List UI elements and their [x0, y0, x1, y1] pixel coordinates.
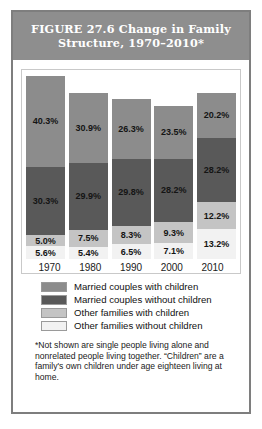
bar-1980: 30.9%29.9%7.5%5.4%	[69, 76, 108, 259]
bar-segment-value: 28.2%	[204, 165, 230, 175]
bar-segment: 7.5%	[69, 230, 108, 247]
bar-segment: 5.4%	[69, 247, 108, 259]
bar-segment: 29.8%	[112, 159, 151, 226]
legend-item-label: Other families with children	[74, 307, 189, 318]
bar-segment-value: 40.3%	[33, 116, 59, 126]
legend-item: Other families with children	[41, 307, 241, 318]
legend-item-label: Other families without children	[74, 320, 203, 331]
bar-segment-value: 9.3%	[163, 228, 184, 238]
x-axis-label-2000: 2000	[152, 262, 191, 273]
bar-segment: 12.2%	[197, 202, 236, 229]
bar-segment-value: 5.4%	[78, 248, 99, 258]
bar-segment-value: 8.3%	[121, 230, 142, 240]
bar-segment: 23.5%	[154, 106, 193, 159]
bar-segment: 29.9%	[69, 163, 108, 230]
bar-segment-value: 30.9%	[75, 123, 101, 133]
bar-segment-value: 5.0%	[35, 236, 56, 246]
legend-item-label: Married couples with children	[74, 281, 198, 292]
bar-segment: 6.5%	[112, 244, 151, 259]
bar-segment: 8.3%	[112, 226, 151, 245]
bar-1990: 26.3%29.8%8.3%6.5%	[112, 76, 151, 259]
bar-segment: 28.2%	[154, 159, 193, 223]
bar-segment-value: 7.5%	[78, 233, 99, 243]
figure-card: FIGURE 27.6 Change in Family Structure, …	[11, 10, 251, 414]
figure-body: 40.3%30.3%5.0%5.6%30.9%29.9%7.5%5.4%26.3…	[13, 60, 249, 382]
bar-2010: 20.2%28.2%12.2%13.2%	[197, 76, 236, 259]
bar-segment-value: 26.3%	[118, 124, 144, 134]
legend-swatch-icon	[41, 308, 67, 318]
bar-segment-value: 20.2%	[204, 110, 230, 120]
x-axis-labels: 19701980199020002010	[26, 262, 236, 273]
bar-segment-value: 6.5%	[121, 247, 142, 257]
legend-swatch-icon	[41, 321, 67, 331]
bar-segment-value: 7.1%	[163, 246, 184, 256]
bar-segment-value: 29.9%	[75, 191, 101, 201]
bar-segment-value: 23.5%	[161, 127, 187, 137]
legend-swatch-icon	[41, 295, 67, 305]
bar-segment: 40.3%	[26, 76, 65, 167]
bar-segment: 26.3%	[112, 99, 151, 158]
legend-item: Married couples with children	[41, 281, 241, 292]
chart-plot-area: 40.3%30.3%5.0%5.6%30.9%29.9%7.5%5.4%26.3…	[21, 69, 241, 274]
bar-1970: 40.3%30.3%5.0%5.6%	[26, 76, 65, 259]
figure-title: FIGURE 27.6 Change in Family Structure, …	[13, 22, 249, 50]
legend-item-label: Married couples without children	[74, 294, 212, 305]
x-axis-label-2010: 2010	[193, 262, 232, 273]
chart-legend: Married couples with childrenMarried cou…	[21, 281, 241, 331]
bar-segment: 5.6%	[26, 246, 65, 259]
bar-segment-value: 28.2%	[161, 185, 187, 195]
bar-segment: 30.9%	[69, 93, 108, 163]
stacked-bars-container: 40.3%30.3%5.0%5.6%30.9%29.9%7.5%5.4%26.3…	[26, 76, 236, 259]
x-axis-label-1980: 1980	[71, 262, 110, 273]
bar-segment: 5.0%	[26, 235, 65, 246]
bar-segment-value: 13.2%	[204, 239, 230, 249]
figure-header: FIGURE 27.6 Change in Family Structure, …	[13, 12, 249, 60]
figure-footnote: *Not shown are single people living alon…	[21, 340, 241, 382]
legend-item: Other families without children	[41, 320, 241, 331]
bar-segment-value: 29.8%	[118, 187, 144, 197]
bar-segment-value: 5.6%	[35, 248, 56, 258]
bar-segment-value: 30.3%	[33, 196, 59, 206]
bar-segment: 7.1%	[154, 243, 193, 259]
legend-item: Married couples without children	[41, 294, 241, 305]
x-axis-label-1990: 1990	[112, 262, 151, 273]
bar-segment: 9.3%	[154, 222, 193, 243]
bar-segment: 28.2%	[197, 138, 236, 202]
bar-2000: 23.5%28.2%9.3%7.1%	[154, 76, 193, 259]
bar-segment: 20.2%	[197, 93, 236, 139]
x-axis-label-1970: 1970	[30, 262, 69, 273]
legend-swatch-icon	[41, 282, 67, 292]
bar-segment: 30.3%	[26, 167, 65, 235]
bar-segment-value: 12.2%	[204, 211, 230, 221]
bar-segment: 13.2%	[197, 229, 236, 259]
